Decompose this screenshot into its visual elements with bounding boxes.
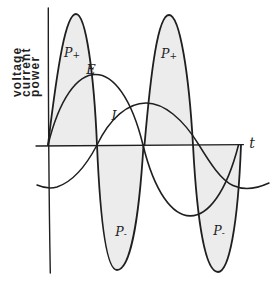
time-axis-label: t	[249, 136, 255, 150]
power-negative-label-1: P-	[115, 226, 126, 239]
power-positive-lobe-1-fill	[48, 14, 97, 145]
voltage-curve-label: E	[86, 63, 96, 76]
power-positive-label-1: P+	[64, 47, 80, 60]
power-negative-label-2-sign: -	[222, 228, 225, 238]
power-negative-lobe-2-fill	[193, 145, 241, 272]
current-curve-label: I	[111, 109, 116, 122]
power-positive-label-2: P+	[161, 48, 177, 61]
power-negative-lobe-1-fill	[97, 145, 144, 270]
power-positive-label-1-sign: +	[72, 50, 80, 60]
y-axis-caption-line-power: power	[31, 17, 40, 97]
power-negative-label-2: P-	[213, 225, 224, 238]
power-negative-label-1-sign: -	[124, 229, 127, 239]
y-axis-caption: voltage current power	[13, 17, 41, 97]
power-positive-label-2-sign: +	[169, 51, 177, 61]
power-waveform-diagram: voltage current power E I t P+ P- P+ P-	[0, 0, 270, 288]
